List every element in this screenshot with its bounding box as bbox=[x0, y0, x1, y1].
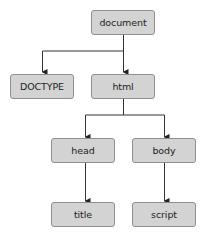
dom-tree-diagram: document DOCTYPE html head body title sc… bbox=[0, 0, 207, 236]
edge-document-children bbox=[43, 35, 124, 72]
node-head-label: head bbox=[71, 145, 94, 156]
node-doctype: DOCTYPE bbox=[10, 74, 74, 99]
node-title-label: title bbox=[74, 209, 92, 220]
node-html-label: html bbox=[112, 81, 133, 92]
edge-html-children bbox=[86, 99, 165, 137]
node-title: title bbox=[51, 202, 115, 227]
node-head: head bbox=[51, 138, 115, 163]
node-html: html bbox=[91, 74, 155, 99]
node-document: document bbox=[91, 10, 155, 35]
node-script: script bbox=[132, 202, 196, 227]
node-document-label: document bbox=[99, 17, 146, 28]
node-body: body bbox=[132, 138, 196, 163]
edges-layer bbox=[0, 0, 207, 236]
node-doctype-label: DOCTYPE bbox=[20, 81, 64, 92]
node-script-label: script bbox=[151, 209, 177, 220]
node-body-label: body bbox=[152, 145, 175, 156]
